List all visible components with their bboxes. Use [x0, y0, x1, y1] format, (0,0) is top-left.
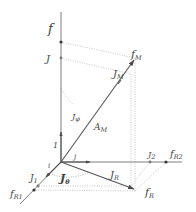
vector-JR [61, 162, 134, 189]
points [32, 40, 167, 191]
label-f: f [47, 21, 55, 36]
point-f [59, 40, 62, 43]
label-AM: AM [93, 122, 108, 134]
labels: f J fM JM Jφ AM 1 i j Jθ J1 fR1 JR fR J2… [9, 21, 183, 201]
label-JM: JM [111, 68, 124, 81]
label-J1: J1 [28, 173, 38, 185]
point-J2 [149, 161, 152, 164]
point-fR2 [164, 160, 167, 163]
point-J [60, 57, 63, 60]
label-i: i [48, 162, 50, 170]
axes [20, 12, 182, 204]
theta-arc [50, 172, 90, 177]
label-j: j [72, 153, 77, 161]
label-fR2: fR2 [169, 148, 183, 161]
label-J: J [44, 53, 51, 64]
label-J2: J2 [146, 150, 155, 161]
point-fR1 [32, 188, 35, 191]
label-1: 1 [53, 141, 58, 150]
projection-lines [36, 42, 166, 191]
label-fR: fR [144, 186, 154, 200]
point-J1 [37, 185, 40, 188]
label-fR1: fR1 [9, 188, 23, 201]
label-Jphi: Jφ [70, 112, 80, 123]
label-fM: fM [130, 48, 142, 62]
label-Jtheta: Jθ [58, 172, 70, 186]
vector-decomposition-diagram: f J fM JM Jφ AM 1 i j Jθ J1 fR1 JR fR J2… [0, 0, 196, 212]
